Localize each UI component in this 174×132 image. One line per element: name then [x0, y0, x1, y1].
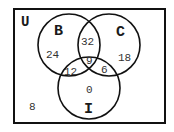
region-i-only: 0 — [86, 84, 93, 96]
set-b-label: B — [54, 23, 63, 40]
region-outside: 8 — [29, 101, 36, 113]
region-b-c-i: 9 — [86, 55, 93, 67]
region-b-only: 24 — [46, 49, 60, 61]
venn-diagram: U B C I 24 18 0 32 12 6 9 8 — [0, 0, 174, 132]
set-i-label: I — [84, 101, 93, 118]
region-b-c: 32 — [81, 36, 94, 48]
set-c-label: C — [116, 24, 125, 41]
region-b-i: 12 — [64, 66, 77, 78]
region-c-only: 18 — [118, 52, 131, 64]
region-c-i: 6 — [101, 64, 108, 76]
universe-label: U — [21, 14, 29, 30]
